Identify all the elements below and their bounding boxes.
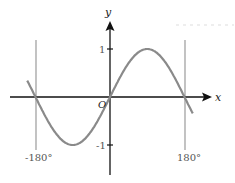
x-axis-label: x bbox=[215, 91, 222, 104]
y-tick-label-neg1: -1 bbox=[96, 140, 106, 151]
y-axis-label: y bbox=[104, 6, 112, 19]
y-tick-label-1: 1 bbox=[99, 44, 105, 55]
x-tick-label-neg180: -180° bbox=[25, 152, 52, 163]
origin-label: O bbox=[98, 99, 106, 110]
x-tick-label-180: 180° bbox=[177, 152, 201, 163]
sine-graph: y x O 1 -1 -180° 180° bbox=[0, 0, 235, 183]
